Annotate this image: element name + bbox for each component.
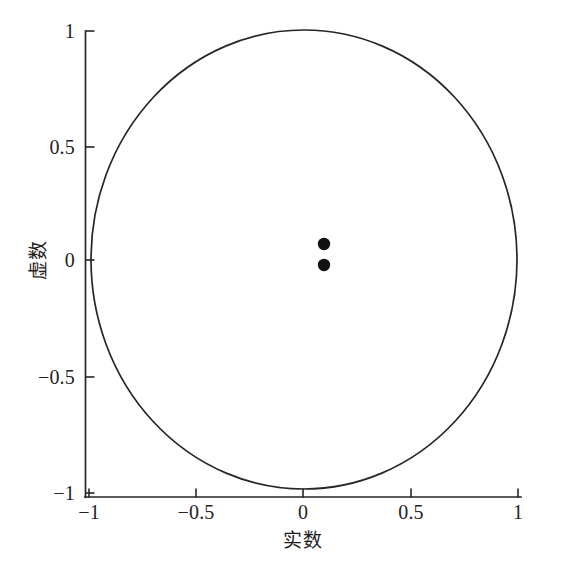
y-tick-label-neg0p5: −0.5 (38, 367, 75, 387)
x-axis-title: 实数 (283, 531, 323, 550)
complex-plane-figure: −1 −0.5 0 0.5 1 1 0.5 0 −0.5 −1 实数 虚数 (0, 0, 564, 569)
figure-background (0, 0, 564, 569)
x-tick-label-neg1: −1 (78, 502, 100, 522)
x-tick-label-0: 0 (298, 502, 308, 522)
data-point-marker (318, 238, 330, 250)
y-tick-label-0p5: 0.5 (49, 137, 75, 157)
y-tick-label-0: 0 (65, 250, 75, 270)
y-axis-title: 虚数 (29, 240, 48, 280)
x-tick-label-0p5: 0.5 (398, 502, 424, 522)
x-tick-label-1: 1 (513, 502, 523, 522)
y-tick-label-1: 1 (65, 21, 75, 41)
plot-canvas (0, 0, 564, 569)
x-tick-label-neg0p5: −0.5 (177, 502, 214, 522)
y-tick-label-neg1: −1 (53, 483, 75, 503)
data-point-marker (318, 259, 330, 271)
